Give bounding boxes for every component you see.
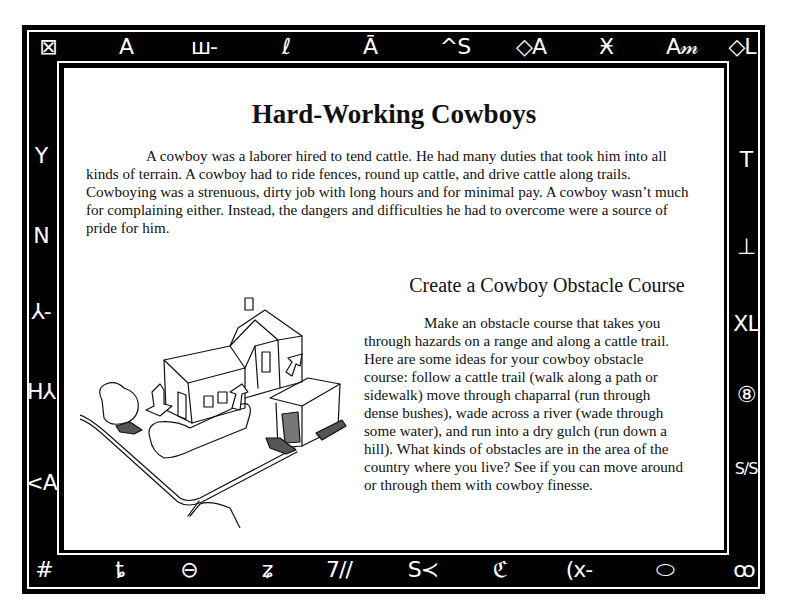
brand-icon-bottom-10: ꝏ <box>724 559 764 581</box>
brand-icon-bottom-4: ʑ <box>247 559 287 581</box>
brand-icon-bottom-7: ℭ <box>480 559 520 581</box>
brand-icon-top-8: Ӿ <box>586 36 626 58</box>
brand-icon-top-5: Ā <box>350 36 390 58</box>
obstacle-course-illustration <box>80 288 370 528</box>
intro-paragraph: A cowboy was a laborer hired to tend cat… <box>86 147 698 237</box>
brand-icon-top-1: ⊠ <box>28 36 68 58</box>
brand-icon-bottom-6: S≺ <box>403 559 443 581</box>
brand-icon-bottom-3: ⊖ <box>169 559 209 581</box>
brand-icon-top-10: ◇L <box>722 36 762 58</box>
brand-border-frame: ⊠ A ш- ℓ Ā ^S ◇A Ӿ A𝓂 ◇L # ȶ ⊖ ʑ 7// S≺ … <box>22 25 765 594</box>
brand-icon-top-6: ^S <box>435 36 475 58</box>
brand-icon-right-1: T <box>726 149 766 171</box>
brand-icon-bottom-2: ȶ <box>100 559 140 581</box>
brand-icon-left-5: <A <box>21 472 61 494</box>
brand-icon-bottom-1: # <box>24 559 64 581</box>
content-panel: Hard-Working Cowboys A cowboy was a labo… <box>62 66 726 552</box>
brand-icon-bottom-9: ⬭ <box>645 559 685 581</box>
brand-icon-top-3: ш- <box>184 36 224 58</box>
brand-icon-bottom-8: (x- <box>559 559 599 581</box>
brand-icon-left-3: ⅄- <box>21 301 61 323</box>
brand-icon-top-4: ℓ <box>266 36 306 58</box>
brand-icon-top-9: A𝓂 <box>662 36 702 58</box>
page-title: Hard-Working Cowboys <box>64 99 724 130</box>
brand-icon-right-2: ⊥ <box>726 236 766 258</box>
brand-icon-left-1: Y <box>21 145 61 167</box>
brand-icon-top-2: A <box>106 36 146 58</box>
brand-icon-left-4: H⅄ <box>21 381 61 403</box>
brand-icon-right-5: S/S <box>726 461 766 477</box>
brand-icon-bottom-5: 7// <box>319 559 359 581</box>
brand-icon-right-4: ⑧ <box>726 384 766 406</box>
brand-icon-left-2: N <box>21 225 61 247</box>
brand-icon-right-3: XL <box>726 313 766 335</box>
activity-body: Make an obstacle course that takes you t… <box>364 314 686 494</box>
activity-heading: Create a Cowboy Obstacle Course <box>382 274 712 297</box>
brand-icon-top-7: ◇A <box>511 36 551 58</box>
